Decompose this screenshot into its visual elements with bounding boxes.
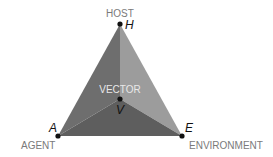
agent-label: AGENT	[21, 140, 55, 151]
environment-point	[179, 133, 184, 138]
epidemiologic-triangle-diagram: HOST H A AGENT E ENVIRONMENT VECTOR V	[0, 0, 273, 157]
vector-point	[117, 96, 122, 101]
environment-label: ENVIRONMENT	[189, 140, 263, 151]
host-letter: H	[125, 18, 134, 32]
environment-letter: E	[185, 121, 194, 135]
vector-letter: V	[116, 103, 125, 117]
vector-label: VECTOR	[99, 84, 141, 95]
host-point	[117, 21, 122, 26]
agent-letter: A	[48, 121, 57, 135]
